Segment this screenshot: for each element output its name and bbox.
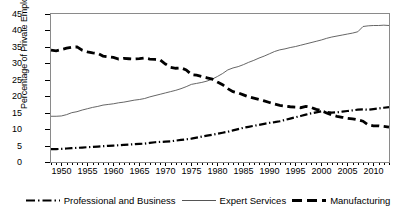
dash-dot-line-icon bbox=[26, 196, 60, 205]
y-tick-label: 15 bbox=[0, 109, 22, 117]
y-tick-label: 35 bbox=[0, 43, 22, 51]
series-line-professional-and-business bbox=[51, 107, 389, 149]
chart-figure: Percentage of Private Employment 0510152… bbox=[0, 0, 416, 217]
y-tick-label: 40 bbox=[0, 26, 22, 34]
dash-line-icon bbox=[292, 196, 326, 205]
series-canvas bbox=[51, 14, 389, 162]
legend-item-manufacturing: Manufacturing bbox=[289, 195, 393, 206]
series-line-manufacturing bbox=[51, 47, 389, 127]
y-tick-label: 20 bbox=[0, 92, 22, 100]
y-tick-label: 0 bbox=[0, 158, 22, 166]
y-tick-label: 5 bbox=[0, 142, 22, 150]
chart-legend: Professional and Business Expert Service… bbox=[0, 190, 416, 210]
legend-label: Professional and Business bbox=[64, 195, 176, 206]
legend-item-professional-and-business: Professional and Business bbox=[23, 195, 179, 206]
y-tick-label: 25 bbox=[0, 76, 22, 84]
legend-label: Manufacturing bbox=[330, 195, 390, 206]
series-line-expert-services bbox=[51, 25, 389, 116]
legend-label: Expert Services bbox=[220, 195, 287, 206]
y-tick-label: 45 bbox=[0, 10, 22, 18]
plot-area bbox=[50, 13, 390, 163]
x-tick-label: 2010 bbox=[358, 167, 388, 176]
solid-line-icon bbox=[182, 196, 216, 205]
legend-item-expert-services: Expert Services bbox=[179, 195, 290, 206]
y-tick-label: 10 bbox=[0, 125, 22, 133]
y-tick-label: 30 bbox=[0, 59, 22, 67]
